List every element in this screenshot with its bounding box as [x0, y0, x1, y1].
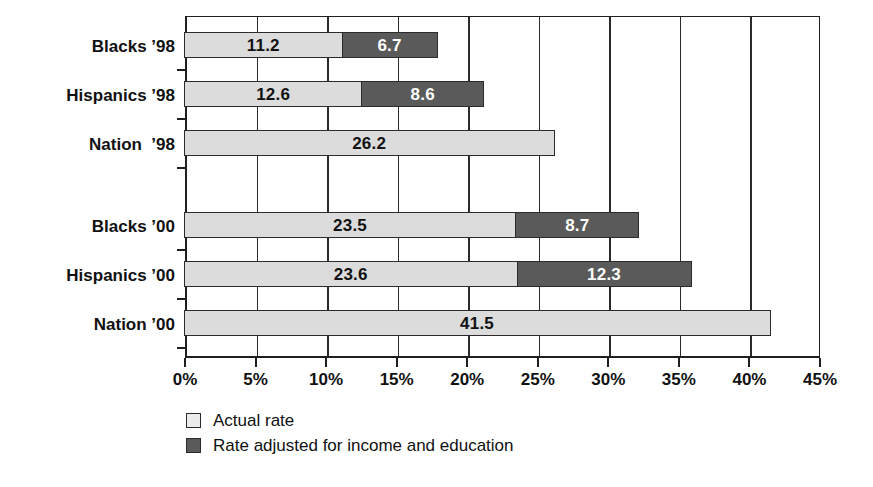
bar-row: 12.68.6 [185, 81, 484, 107]
bar-segment-actual: 23.6 [184, 261, 519, 287]
bar-value-label: 41.5 [460, 315, 494, 332]
gridline-25% [539, 17, 541, 356]
y-axis-tick [177, 69, 186, 71]
gridline-5% [257, 17, 259, 356]
y-axis-tick [177, 347, 186, 349]
category-label: Nation ’00 [0, 316, 175, 333]
bar-segment-actual: 41.5 [184, 310, 771, 336]
legend-item-adjusted-rate: Rate adjusted for income and education [186, 433, 514, 458]
bar-row: 11.26.7 [185, 32, 438, 58]
x-axis-label: 20% [450, 371, 484, 388]
category-label: Nation ’98 [0, 136, 175, 153]
gridline-30% [609, 17, 611, 356]
x-axis-tick [325, 358, 327, 367]
bar-segment-actual: 12.6 [184, 81, 363, 107]
x-axis-tick [184, 358, 186, 367]
y-axis-tick [177, 167, 186, 169]
bar-row: 23.612.3 [185, 261, 692, 287]
category-label: Hispanics ’98 [0, 87, 175, 104]
gridline-15% [398, 17, 400, 356]
bar-segment-adjusted: 8.6 [361, 81, 484, 107]
bar-segment-adjusted: 8.7 [515, 212, 639, 238]
x-axis-tick [607, 358, 609, 367]
x-axis-label: 10% [309, 371, 343, 388]
y-axis-tick [177, 118, 186, 120]
category-label: Blacks ’00 [0, 218, 175, 235]
legend: Actual rate Rate adjusted for income and… [186, 408, 514, 458]
x-axis-label: 30% [591, 371, 625, 388]
bar-row: 23.58.7 [185, 212, 639, 238]
x-axis-tick [678, 358, 680, 367]
bar-value-label: 23.5 [333, 217, 367, 234]
category-label: Blacks ’98 [0, 38, 175, 55]
bar-value-label: 26.2 [352, 135, 386, 152]
bar-chart: Blacks ’9811.26.7Hispanics ’9812.68.6Nat… [0, 0, 873, 487]
x-axis-tick [819, 358, 821, 367]
x-axis-label: 0% [173, 371, 198, 388]
gridline-35% [680, 17, 682, 356]
legend-label-adjusted-rate: Rate adjusted for income and education [213, 437, 514, 454]
legend-label-actual-rate: Actual rate [213, 412, 294, 429]
x-axis-tick [537, 358, 539, 367]
gridline-10% [327, 17, 329, 356]
bar-segment-adjusted: 12.3 [517, 261, 692, 287]
y-axis-tick [177, 298, 186, 300]
x-axis-label: 35% [662, 371, 696, 388]
bar-row: 41.5 [185, 310, 771, 336]
x-axis-tick [255, 358, 257, 367]
x-axis-tick [396, 358, 398, 367]
x-axis-label: 25% [521, 371, 555, 388]
bar-value-label: 6.7 [377, 37, 401, 54]
x-axis-label: 45% [803, 371, 837, 388]
bar-segment-actual: 11.2 [184, 32, 344, 58]
category-label: Hispanics ’00 [0, 267, 175, 284]
bar-value-label: 8.7 [565, 217, 589, 234]
plot-area [185, 16, 820, 358]
legend-swatch-actual-rate [186, 413, 201, 428]
gridline-40% [750, 17, 752, 356]
x-axis-tick [748, 358, 750, 367]
gridline-20% [468, 17, 470, 356]
bar-value-label: 12.6 [256, 86, 290, 103]
bar-segment-adjusted: 6.7 [342, 32, 438, 58]
x-axis-tick [466, 358, 468, 367]
legend-item-actual-rate: Actual rate [186, 408, 514, 433]
x-axis-label: 15% [380, 371, 414, 388]
bar-segment-actual: 23.5 [184, 212, 517, 238]
x-axis-label: 40% [732, 371, 766, 388]
bar-value-label: 11.2 [247, 37, 280, 54]
x-axis-label: 5% [243, 371, 268, 388]
legend-swatch-adjusted-rate [186, 438, 201, 453]
y-axis-tick [177, 249, 186, 251]
bar-row: 26.2 [185, 130, 555, 156]
bar-segment-actual: 26.2 [184, 130, 555, 156]
bar-value-label: 8.6 [411, 86, 435, 103]
bar-value-label: 23.6 [334, 266, 368, 283]
bar-value-label: 12.3 [587, 266, 621, 283]
